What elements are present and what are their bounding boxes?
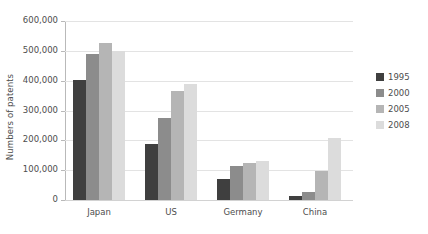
legend-label: 2008 bbox=[388, 120, 410, 130]
x-axis-category-label: Japan bbox=[59, 207, 139, 217]
bar[interactable] bbox=[302, 192, 315, 200]
y-axis-tick-mark bbox=[61, 111, 65, 112]
bar[interactable] bbox=[99, 43, 112, 200]
bar[interactable] bbox=[315, 171, 328, 200]
bar[interactable] bbox=[112, 51, 125, 200]
bar[interactable] bbox=[158, 118, 171, 200]
legend-label: 2000 bbox=[388, 88, 410, 98]
legend-swatch-icon bbox=[376, 73, 384, 81]
bar[interactable] bbox=[171, 91, 184, 200]
bar[interactable] bbox=[328, 138, 341, 200]
bar[interactable] bbox=[230, 166, 243, 200]
y-axis-tick-mark bbox=[61, 81, 65, 82]
legend-swatch-icon bbox=[376, 89, 384, 97]
legend-item[interactable]: 2005 bbox=[376, 101, 426, 117]
x-axis-category-label: Germany bbox=[203, 207, 283, 217]
legend-item[interactable]: 1995 bbox=[376, 69, 426, 85]
plot-area bbox=[65, 21, 353, 200]
legend-swatch-icon bbox=[376, 105, 384, 113]
y-axis-tick-label: 600,000 bbox=[0, 15, 58, 25]
y-axis-tick-mark bbox=[61, 200, 65, 201]
bar[interactable] bbox=[289, 196, 302, 200]
legend: 1995200020052008 bbox=[376, 69, 426, 133]
y-axis-tick-label: 300,000 bbox=[0, 105, 58, 115]
bar-group bbox=[217, 21, 269, 200]
bar[interactable] bbox=[184, 84, 197, 200]
gridline bbox=[65, 200, 353, 201]
legend-swatch-icon bbox=[376, 121, 384, 129]
y-axis-tick-mark bbox=[61, 21, 65, 22]
bar-group bbox=[145, 21, 197, 200]
legend-label: 2005 bbox=[388, 104, 410, 114]
x-axis-category-label: China bbox=[275, 207, 355, 217]
bar[interactable] bbox=[217, 179, 230, 200]
y-axis-tick-mark bbox=[61, 51, 65, 52]
legend-item[interactable]: 2008 bbox=[376, 117, 426, 133]
y-axis-tick-label: 400,000 bbox=[0, 75, 58, 85]
y-axis-tick-label: 100,000 bbox=[0, 164, 58, 174]
y-axis-tick-mark bbox=[61, 170, 65, 171]
y-axis-tick-label: 0 bbox=[0, 194, 58, 204]
bar[interactable] bbox=[73, 80, 86, 200]
bar[interactable] bbox=[145, 144, 158, 200]
y-axis-tick-labels: 0100,000200,000300,000400,000500,000600,… bbox=[0, 0, 58, 234]
bar-group bbox=[289, 21, 341, 200]
y-axis-tick-label: 200,000 bbox=[0, 134, 58, 144]
legend-label: 1995 bbox=[388, 72, 410, 82]
legend-item[interactable]: 2000 bbox=[376, 85, 426, 101]
bar-chart: Numbers of patents 0100,000200,000300,00… bbox=[0, 0, 428, 234]
x-axis-category-label: US bbox=[131, 207, 211, 217]
bar[interactable] bbox=[243, 163, 256, 200]
y-axis-tick-mark bbox=[61, 140, 65, 141]
y-axis-tick-label: 500,000 bbox=[0, 45, 58, 55]
bar[interactable] bbox=[86, 54, 99, 200]
bar-group bbox=[73, 21, 125, 200]
bar[interactable] bbox=[256, 161, 269, 200]
